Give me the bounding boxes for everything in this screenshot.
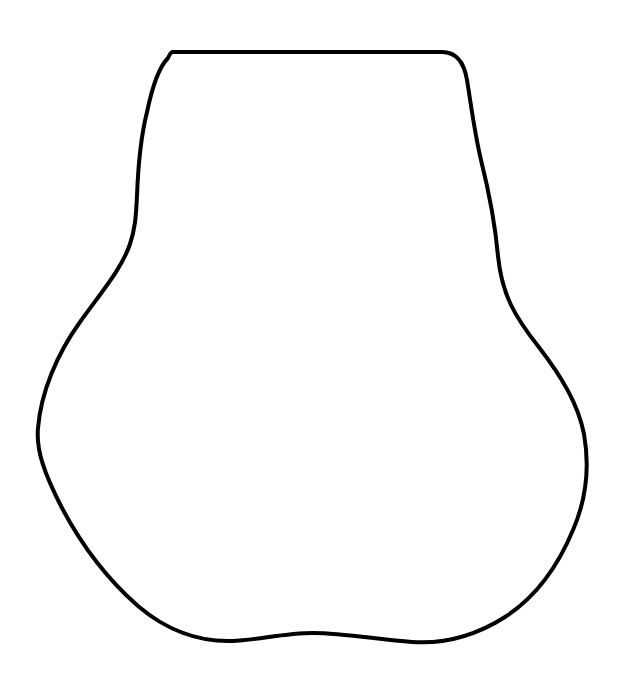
shape-outline-svg: [0, 0, 621, 680]
canvas-background: [0, 0, 621, 680]
drawing-canvas: [0, 0, 621, 680]
